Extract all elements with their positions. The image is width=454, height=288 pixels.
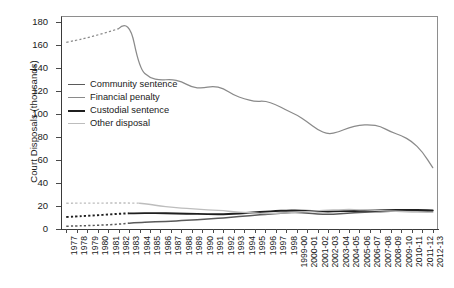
x-axis-tick-label: 1981 [112, 236, 121, 255]
legend-item[interactable]: Other disposal [68, 117, 177, 130]
series-line-dashed [66, 223, 129, 226]
x-axis-tick-mark [108, 229, 109, 233]
x-axis-tick-mark [433, 229, 434, 233]
y-axis-tick-label: 180 [24, 17, 48, 27]
x-axis-tick-mark [339, 229, 340, 233]
x-axis-tick-label: 1979 [91, 236, 100, 255]
series-line-dashed [66, 213, 129, 217]
series-line-dashed [66, 29, 118, 43]
x-axis-tick-mark [286, 229, 287, 233]
x-axis-tick-mark [244, 229, 245, 233]
x-axis-tick-mark [328, 229, 329, 233]
x-axis-tick-label: 1978 [80, 236, 89, 255]
x-axis-tick-mark [181, 229, 182, 233]
y-axis-tick-mark [56, 206, 61, 207]
x-axis-tick-label: 2005-06 [363, 236, 372, 268]
chart-legend: Community sentenceFinancial penaltyCusto… [68, 78, 177, 130]
x-axis-tick-label: 2004-05 [352, 236, 361, 268]
x-axis-tick-mark [192, 229, 193, 233]
x-axis-tick-label: 1980 [101, 236, 110, 255]
x-axis-tick-mark [129, 229, 130, 233]
x-axis-tick-mark [202, 229, 203, 233]
x-axis-tick-mark [171, 229, 172, 233]
x-axis-tick-mark [87, 229, 88, 233]
x-axis-tick-mark [119, 229, 120, 233]
x-axis-tick-label: 2003-04 [342, 236, 351, 268]
legend-color-swatch [68, 84, 85, 85]
y-axis-tick-mark [56, 160, 61, 161]
x-axis-tick-mark [307, 229, 308, 233]
x-axis-tick-mark [140, 229, 141, 233]
x-axis-tick-mark [265, 229, 266, 233]
x-axis-tick-label: 1987 [174, 236, 183, 255]
x-axis-tick-label: 1991 [216, 236, 225, 255]
x-axis-tick-label: 2007-08 [384, 236, 393, 268]
y-axis-tick-label: 160 [24, 40, 48, 50]
x-axis-tick-label: 1994 [248, 236, 257, 255]
y-axis-tick-mark [56, 229, 61, 230]
x-axis-tick-mark [349, 229, 350, 233]
x-axis-tick-label: 2011-12 [426, 236, 435, 267]
x-axis-tick-mark [98, 229, 99, 233]
x-axis-tick-label: 1989 [195, 236, 204, 255]
y-axis-tick-label: 60 [24, 155, 48, 165]
x-axis-tick-mark [370, 229, 371, 233]
x-axis-tick-label: 1988 [185, 236, 194, 255]
line-chart: Court Disposals (thousands) 020406080100… [0, 0, 454, 288]
legend-item-label: Other disposal [90, 119, 150, 128]
x-axis-tick-mark [359, 229, 360, 233]
x-axis-tick-mark [412, 229, 413, 233]
legend-item-label: Financial penalty [90, 93, 160, 102]
y-axis-tick-mark [56, 114, 61, 115]
y-axis-tick-label: 120 [24, 86, 48, 96]
x-axis-tick-mark [276, 229, 277, 233]
legend-item-label: Community sentence [90, 80, 177, 89]
legend-color-swatch [68, 110, 85, 112]
x-axis-tick-label: 1977 [70, 236, 79, 255]
x-axis-tick-label: 1983 [132, 236, 141, 255]
y-axis-tick-label: 100 [24, 109, 48, 119]
x-axis-tick-label: 1995 [258, 236, 267, 255]
x-axis-tick-label: 1992 [227, 236, 236, 255]
y-axis-tick-mark [56, 68, 61, 69]
x-axis-tick-mark [150, 229, 151, 233]
legend-item[interactable]: Custodial sentence [68, 104, 177, 117]
x-axis-tick-label: 1996 [269, 236, 278, 255]
x-axis-tick-mark [234, 229, 235, 233]
x-axis-tick-mark [213, 229, 214, 233]
y-axis-tick-mark [56, 22, 61, 23]
x-axis-tick-label: 2006-07 [373, 236, 382, 268]
legend-item[interactable]: Community sentence [68, 78, 177, 91]
y-axis-tick-label: 40 [24, 178, 48, 188]
x-axis-tick-mark [401, 229, 402, 233]
x-axis-tick-label: 1990 [206, 236, 215, 255]
y-axis-tick-mark [56, 183, 61, 184]
x-axis-tick-label: 1997 [279, 236, 288, 255]
x-axis-tick-label: 2000-01 [310, 236, 319, 268]
x-axis-tick-mark [297, 229, 298, 233]
y-axis-tick-mark [56, 91, 61, 92]
x-axis-tick-label: 2008-09 [394, 236, 403, 268]
y-axis-tick-label: 140 [24, 63, 48, 73]
x-axis-tick-mark [160, 229, 161, 233]
x-axis-tick-label: 1985 [153, 236, 162, 255]
x-axis-tick-label: 2001-02 [321, 236, 330, 268]
x-axis-tick-label: 1986 [164, 236, 173, 255]
y-axis-tick-mark [56, 45, 61, 46]
x-axis-tick-mark [391, 229, 392, 233]
x-axis-tick-mark [380, 229, 381, 233]
x-axis-tick-label: 1999-00 [300, 236, 309, 268]
legend-color-swatch [68, 123, 85, 124]
legend-item[interactable]: Financial penalty [68, 91, 177, 104]
x-axis-tick-label: 1993 [237, 236, 246, 255]
x-axis-tick-mark [422, 229, 423, 233]
x-axis-tick-label: 1998 [290, 236, 299, 255]
x-axis-tick-label: 2009-10 [405, 236, 414, 268]
x-axis-tick-label: 1984 [143, 236, 152, 255]
x-axis-tick-label: 2012-13 [436, 236, 445, 268]
legend-item-label: Custodial sentence [90, 106, 169, 115]
x-axis-tick-mark [318, 229, 319, 233]
y-axis-tick-labels: 020406080100120140160180 [20, 0, 48, 288]
y-axis-tick-label: 20 [24, 201, 48, 211]
legend-color-swatch [68, 97, 85, 98]
